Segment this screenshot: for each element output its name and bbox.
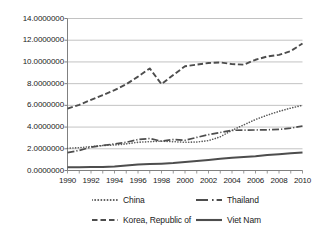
x-tick-label: 2006 [247,177,264,185]
x-tick-label: 2010 [294,177,311,185]
x-axis-tick-labels: 1990199219941996199820002002200420062008… [0,0,317,190]
x-tick-label: 1998 [153,177,170,185]
x-tick-label: 2008 [271,177,288,185]
legend-item-thailand[interactable]: Thailand [196,193,259,207]
legend-item-china[interactable]: China [92,193,145,207]
x-tick-label: 1996 [130,177,147,185]
x-tick-label: 1990 [59,177,76,185]
chart-legend: China Thailand Korea, Republic of Viet N… [0,191,317,235]
legend-label-china: China [123,195,145,205]
legend-swatch-korea [92,215,118,225]
legend-label-vietnam: Viet Nam [227,215,261,225]
x-tick-label: 2004 [224,177,241,185]
legend-swatch-china [92,195,118,205]
x-tick-label: 2000 [177,177,194,185]
legend-item-vietnam[interactable]: Viet Nam [196,213,261,227]
legend-item-korea[interactable]: Korea, Republic of [92,213,191,227]
chart-container: 0.00000002.00000004.00000006.00000008.00… [0,0,317,235]
x-tick-label: 2002 [200,177,217,185]
legend-swatch-thailand [196,195,222,205]
legend-swatch-vietnam [196,215,222,225]
x-tick-label: 1994 [106,177,123,185]
plot-area: 0.00000002.00000004.00000006.00000008.00… [0,0,317,190]
legend-label-thailand: Thailand [227,195,259,205]
x-tick-label: 1992 [83,177,100,185]
legend-label-korea: Korea, Republic of [123,215,191,225]
